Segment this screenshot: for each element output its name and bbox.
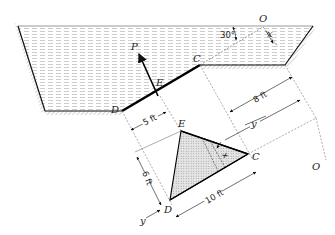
- angle-label: 30°: [220, 30, 235, 40]
- point-D: D: [163, 204, 172, 215]
- axis-x-top: x: [267, 28, 273, 39]
- dim-10ft: 10 ft: [203, 187, 226, 206]
- point-E: E: [177, 118, 186, 129]
- point-O-top: O: [259, 13, 267, 24]
- point-D-top: D: [110, 104, 119, 115]
- point-C: C: [252, 151, 260, 162]
- point-C-top: C: [193, 53, 201, 64]
- point-E-top: E: [155, 77, 164, 88]
- point-P: P: [130, 41, 138, 52]
- axis-y-bottom: y: [139, 215, 146, 226]
- triangle-gate: [170, 131, 248, 200]
- axis-y-mid: y: [250, 118, 257, 129]
- point-O-right: O: [312, 161, 320, 172]
- gate-diagram: 30° O x P D E C 8 ft y O 5 ft x E C D: [0, 0, 335, 235]
